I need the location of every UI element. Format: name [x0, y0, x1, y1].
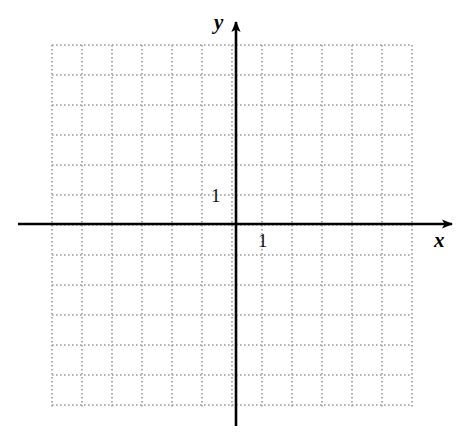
axes	[18, 22, 452, 426]
y-axis-label: y	[214, 12, 223, 33]
grid-vertical-lines	[52, 45, 412, 408]
graph-figure: x y 1 1	[0, 0, 474, 440]
grid-lines	[52, 45, 412, 408]
y-axis-unit-tick-label: 1	[211, 186, 221, 205]
x-axis-unit-tick-label: 1	[258, 231, 268, 250]
x-axis-label: x	[434, 230, 445, 251]
coordinate-plane-svg	[0, 0, 474, 440]
